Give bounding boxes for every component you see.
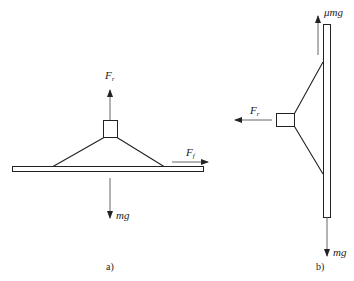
horizontal-plate xyxy=(13,167,204,172)
handle-box xyxy=(104,121,118,138)
figure-caption-a: a) xyxy=(106,261,114,273)
suction-cup-body xyxy=(53,138,164,167)
figure-caption-b: b) xyxy=(316,261,324,273)
force-label-down: mg xyxy=(333,246,347,258)
suction-cup-body xyxy=(295,62,324,174)
handle-box xyxy=(277,114,295,127)
force-label-left: Fr xyxy=(249,104,260,118)
force-label-right: Ff xyxy=(185,146,196,160)
force-label-down: mg xyxy=(116,209,130,221)
free-body-diagrams: Fr Ff mg a) Fr μmg mg b) xyxy=(0,0,354,281)
figure-b: Fr μmg mg b) xyxy=(235,6,347,273)
figure-a: Fr Ff mg a) xyxy=(13,69,209,273)
vertical-plate xyxy=(324,25,331,218)
force-label-up: μmg xyxy=(323,6,343,18)
force-label-up: Fr xyxy=(104,69,115,83)
